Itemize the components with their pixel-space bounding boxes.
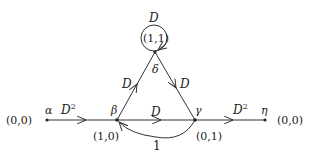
coord-delta: (1,1) <box>143 32 169 45</box>
symbol-delta: δ <box>152 63 159 76</box>
label-gamma-beta: 1 <box>153 139 161 153</box>
symbol-gamma: γ <box>195 104 202 117</box>
edge-gamma-beta <box>119 120 195 138</box>
label-beta-gamma: D <box>150 105 161 119</box>
node-alpha-dot <box>45 118 48 121</box>
coord-gamma: (0,1) <box>196 130 222 143</box>
label-beta-delta: D <box>121 77 132 91</box>
coord-eta: (0,0) <box>277 114 303 127</box>
coord-alpha: (0,0) <box>6 114 32 127</box>
label-delta-loop: D <box>148 11 159 25</box>
label-gamma-eta: D2 <box>232 102 248 117</box>
node-delta-dot <box>153 50 156 53</box>
node-beta-dot <box>115 118 119 122</box>
label-alpha-beta: D2 <box>60 102 76 117</box>
symbol-beta: β <box>110 104 117 117</box>
node-eta-dot <box>263 118 266 121</box>
node-gamma-dot <box>193 118 197 122</box>
state-diagram: (0,0) (1,0) (0,1) (1,1) (0,0) α β γ δ η … <box>0 0 312 154</box>
label-delta-gamma: D <box>179 77 190 91</box>
symbol-alpha: α <box>45 104 53 117</box>
symbol-eta: η <box>261 104 268 117</box>
coord-beta: (1,0) <box>93 130 119 143</box>
